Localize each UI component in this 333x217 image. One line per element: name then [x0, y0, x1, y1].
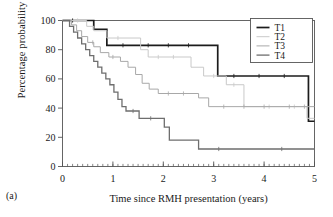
x-tick-label: 1: [110, 173, 115, 184]
x-tick-label: 4: [262, 173, 267, 184]
y-tick-label: 100: [41, 15, 56, 26]
y-tick-label: 60: [46, 73, 56, 84]
x-tick-label: 3: [211, 173, 216, 184]
y-tick-label: 80: [46, 44, 56, 55]
survival-plot: 012345020406080100 T1T2T3T4: [0, 0, 333, 217]
y-axis-title: Percentage probability of survival: [16, 0, 27, 101]
x-tick-label: 0: [60, 173, 65, 184]
figure-panel-a: 012345020406080100 T1T2T3T4 Percentage p…: [0, 0, 333, 217]
x-tick-label: 2: [161, 173, 166, 184]
x-axis-title: Time since RMH presentation (years): [62, 193, 315, 204]
x-tick-label: 5: [312, 173, 317, 184]
legend: T1T2T3T4: [251, 19, 313, 63]
y-tick-label: 20: [46, 132, 56, 143]
legend-label-t4: T4: [275, 51, 286, 61]
panel-label: (a): [6, 190, 17, 201]
y-tick-label: 40: [46, 103, 56, 114]
y-tick-label: 0: [51, 161, 56, 172]
